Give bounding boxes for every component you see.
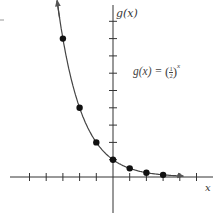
decay-curve <box>57 1 183 177</box>
data-point <box>76 105 82 111</box>
formula-prefix: g(x) = <box>133 65 165 77</box>
curve-arrow-top <box>57 1 60 18</box>
plot-area: g(x) x <box>0 0 216 224</box>
data-point <box>60 35 66 41</box>
data-point <box>93 139 99 145</box>
data-point <box>143 169 149 175</box>
axes <box>10 5 213 213</box>
data-point <box>127 165 133 171</box>
function-formula: g(x) = (12)x <box>133 62 180 80</box>
curve <box>57 1 183 177</box>
formula-exponent: x <box>177 62 180 70</box>
y-axis-label: g(x) <box>116 7 138 20</box>
data-point <box>160 172 166 178</box>
data-point <box>110 157 116 163</box>
x-axis-label: x <box>205 182 211 193</box>
exponential-decay-graph: g(x) x g(x) = (12)x <box>0 0 216 224</box>
